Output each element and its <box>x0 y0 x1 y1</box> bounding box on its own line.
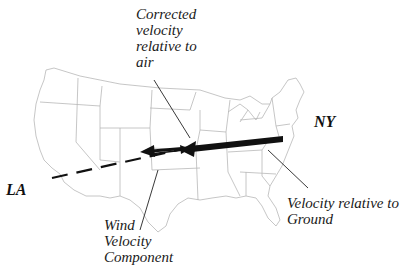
leader-ground-velocity <box>268 150 308 188</box>
label-wind-component: Wind Velocity Component <box>104 217 173 265</box>
leader-lines <box>140 80 308 230</box>
city-label-la: LA <box>6 181 26 199</box>
label-ground-velocity: Velocity relative to Ground <box>287 195 399 227</box>
dashed-path-to-la <box>52 150 178 178</box>
diagram-canvas: Corrected velocity relative to air Veloc… <box>0 0 412 278</box>
city-label-ny: NY <box>314 113 335 131</box>
us-map-svg <box>0 0 412 278</box>
ground-velocity-shaft <box>190 136 283 152</box>
label-corrected-velocity: Corrected velocity relative to air <box>136 6 197 70</box>
corrected-velocity-arrowhead <box>140 145 155 157</box>
